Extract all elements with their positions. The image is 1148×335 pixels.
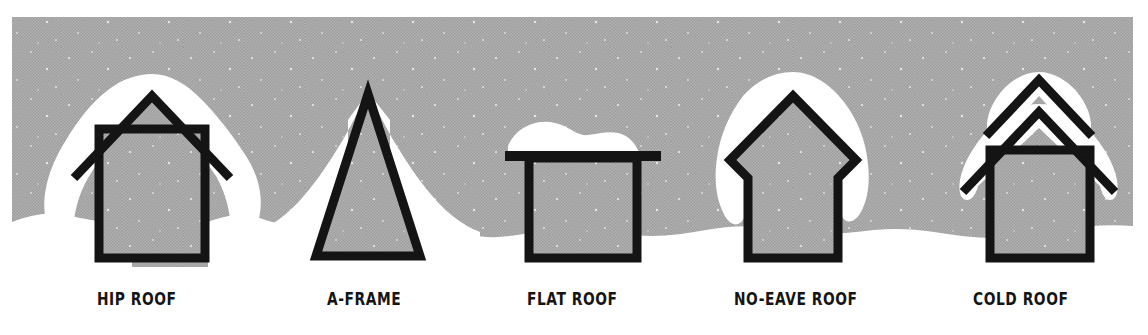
house-body-hip <box>99 129 205 258</box>
scene-svg <box>0 0 1148 335</box>
label-cold-roof: COLD ROOF <box>973 289 1068 309</box>
label-no-eave-roof: NO-EAVE ROOF <box>734 289 857 309</box>
roof-types-illustration: HIP ROOF A-FRAME FLAT ROOF NO-EAVE ROOF … <box>0 0 1148 335</box>
label-a-frame: A-FRAME <box>327 289 401 309</box>
slab-roof-flat <box>505 151 661 161</box>
walls-flat <box>529 158 637 258</box>
label-flat-roof: FLAT ROOF <box>527 289 618 309</box>
walls-cold <box>990 150 1090 258</box>
label-hip-roof: HIP ROOF <box>97 289 177 309</box>
